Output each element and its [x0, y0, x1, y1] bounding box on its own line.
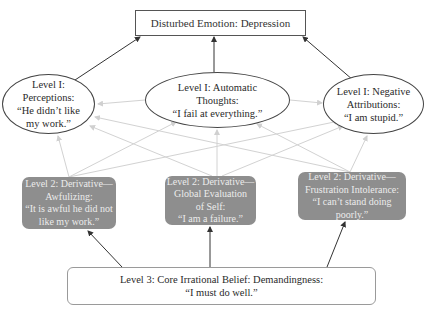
level1-negative-attributions-ellipse: Level I: Negative Attributions: “I am st… — [323, 74, 424, 134]
level1-automatic-thoughts-ellipse: Level I: Automatic Thoughts: “I fail at … — [145, 72, 290, 128]
node-text-line: of Self: — [196, 201, 226, 214]
node-text-line: “I must do well.” — [185, 286, 257, 299]
node-text-line: “It is awful he did not — [25, 203, 112, 216]
node-text-line: Perceptions: — [23, 91, 75, 104]
level3-core-belief-box: Level 3: Core Irrational Belief: Demandi… — [67, 267, 376, 305]
node-text-line: “I am stupid.” — [344, 111, 403, 124]
node-text-line: Level 3: Core Irrational Belief: Demandi… — [120, 273, 323, 286]
level2-global-evaluation-box: Level 2: Derivative— Global Evaluation o… — [165, 176, 256, 225]
disturbed-emotion-box: Disturbed Emotion: Depression — [135, 10, 306, 36]
node-text-line: Attributions: — [347, 98, 401, 111]
level2-awfulizing-box: Level 2: Derivative— Awfulizing: “It is … — [22, 177, 116, 229]
node-text-line: Level I: Automatic — [178, 81, 257, 94]
node-text-line: Level I: Negative — [337, 85, 410, 98]
node-text-line: “I am a failure.” — [178, 213, 243, 226]
node-text-line: Level I: — [32, 78, 65, 91]
node-text-line: my work.” — [26, 117, 71, 130]
node-text-line: Global Evaluation — [174, 188, 247, 201]
disturbed-emotion-label: Disturbed Emotion: Depression — [151, 17, 290, 29]
node-text-line: like my work.” — [39, 216, 99, 229]
rebt-depression-diagram: Disturbed Emotion: Depression Level I: P… — [0, 0, 428, 313]
node-text-line: Level 2: Derivative— — [308, 171, 396, 184]
level2-frustration-intolerance-box: Level 2: Derivative— Frustration Intoler… — [298, 172, 406, 220]
level1-perceptions-ellipse: Level I: Perceptions: “He didn’t like my… — [2, 74, 95, 134]
node-text-line: Level 2: Derivative— — [25, 178, 113, 191]
node-text-line: Frustration Intolerance: — [305, 184, 399, 197]
node-text-line: “I can’t stand doing — [313, 196, 392, 209]
node-text-line: “I fail at everything.” — [173, 107, 263, 120]
node-text-line: Awfulizing: — [45, 191, 92, 204]
node-text-line: Thoughts: — [196, 94, 239, 107]
node-text-line: poorly.” — [336, 209, 368, 222]
node-text-line: “He didn’t like — [17, 104, 80, 117]
node-text-line: Level 2: Derivative— — [167, 176, 255, 189]
